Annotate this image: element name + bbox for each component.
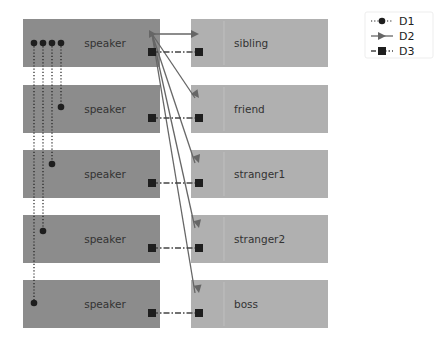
speaker-label: speaker — [84, 233, 126, 245]
listener-label: sibling — [234, 37, 268, 49]
d3-marker — [195, 179, 203, 187]
listener-label: boss — [234, 298, 258, 310]
d3-marker — [195, 48, 203, 56]
d1-marker — [40, 228, 47, 235]
d3-marker — [148, 48, 156, 56]
d3-marker — [148, 244, 156, 252]
listener-label: stranger1 — [234, 168, 285, 180]
d3-marker — [195, 309, 203, 317]
listener-label: stranger2 — [234, 233, 285, 245]
d3-marker — [195, 244, 203, 252]
d1-marker — [31, 40, 38, 47]
legend-label: D1 — [399, 15, 414, 28]
speaker-label: speaker — [84, 168, 126, 180]
speaker-label: speaker — [84, 37, 126, 49]
d1-marker — [49, 40, 56, 47]
d1-marker — [31, 300, 38, 307]
d1-marker — [58, 104, 65, 111]
speaker-label: speaker — [84, 298, 126, 310]
legend-label: D3 — [399, 45, 414, 58]
d3-marker — [148, 309, 156, 317]
d3-marker — [195, 114, 203, 122]
listener-box — [191, 280, 328, 328]
d1-marker — [49, 161, 56, 168]
legend-d3-marker — [378, 47, 386, 55]
d3-marker — [148, 114, 156, 122]
d3-marker — [148, 179, 156, 187]
legend-label: D2 — [399, 30, 414, 43]
legend: D1D2D3 — [365, 12, 433, 58]
diagram-canvas: speakerspeakerspeakerspeakerspeakersibli… — [0, 0, 436, 344]
legend-d1-marker — [379, 18, 386, 25]
d1-marker — [40, 40, 47, 47]
listener-label: friend — [234, 103, 265, 115]
d1-marker — [58, 40, 65, 47]
speaker-label: speaker — [84, 103, 126, 115]
